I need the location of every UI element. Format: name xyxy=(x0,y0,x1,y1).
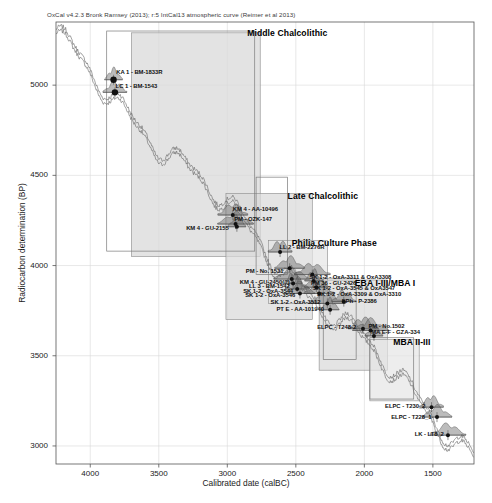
sample-label: KM 4 - GU-2155 xyxy=(79,225,229,231)
y-axis-title: Radiocarbon determination (BP) xyxy=(17,143,27,343)
sample-label: SK 1-2 - OxA-3546 xyxy=(145,292,295,298)
y-tick-label: 3000 xyxy=(14,441,48,450)
sample-label: PM - No.1502 xyxy=(368,323,404,329)
x-tick-label: 3500 xyxy=(139,469,179,478)
x-tick-label: 3000 xyxy=(207,469,247,478)
sample-label: PT E - AA-101940 xyxy=(174,306,324,312)
sample-label: ELPC - T248-2 xyxy=(206,324,356,330)
sample-label: EPh - P-2386 xyxy=(342,298,377,304)
y-tick-label: 5000 xyxy=(14,80,48,89)
x-axis-title: Calibrated date (calBC) xyxy=(0,478,492,488)
sample-label: LL 2 - BM-2276R xyxy=(279,244,324,250)
sample-label: LK - LT8_2 xyxy=(294,431,444,437)
sample-label: LC 1 - BM-1543 xyxy=(116,83,158,89)
sample-label: ELPC - T228_1 xyxy=(282,414,432,420)
sample-label: ELPC - T230_2 xyxy=(275,403,425,409)
period-label: Middle Chalcolithic xyxy=(247,28,327,38)
x-tick-label: 4000 xyxy=(70,469,110,478)
sample-label: PM - OZK-147 xyxy=(234,216,272,222)
sample-label: MA E-F - GZA-334 xyxy=(371,329,420,335)
x-tick-label: 2000 xyxy=(344,469,384,478)
x-tick-label: 1500 xyxy=(413,469,453,478)
sample-label: KM 4 - AA-10496 xyxy=(233,206,278,212)
period-label: MBA II-III xyxy=(393,337,430,347)
sample-label: PM - No. 1531 xyxy=(134,268,284,274)
x-tick-label: 2500 xyxy=(276,469,316,478)
sample-label: SK 1-2 - OxA-3512 xyxy=(171,299,321,305)
y-tick-label: 3500 xyxy=(14,351,48,360)
plot-canvas xyxy=(0,0,492,503)
sample-label: SK 1-2 - OxA-3545 & OxA3547 xyxy=(313,285,395,291)
radiocarbon-calibration-figure: OxCal v4.2.3 Bronk Ramsey (2013); r:5 In… xyxy=(0,0,492,503)
period-label: Late Chalcolithic xyxy=(288,191,358,201)
sample-label: KA 1 - BM-1833R xyxy=(116,69,162,75)
sample-label: SK 1-2 - OxA-3309 & OxA-3310 xyxy=(317,291,401,297)
